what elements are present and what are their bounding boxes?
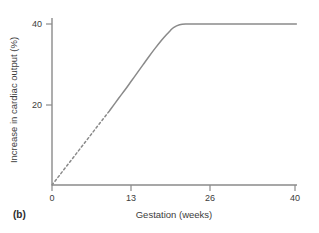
x-tick-label-0: 0: [49, 194, 54, 203]
x-tick-label-13: 13: [126, 194, 136, 203]
y-axis-title: Increase in cardiac output (%): [9, 37, 19, 163]
y-tick-label-20: 20: [24, 101, 42, 110]
x-axis-title: Gestation (weeks): [136, 210, 213, 220]
panel-label: (b): [13, 210, 26, 220]
y-tick-marks: [46, 24, 52, 105]
y-tick-label-40: 40: [24, 20, 42, 29]
cardiac-output-line-chart: [0, 0, 319, 233]
figure-panel-b: 40 20 0 13 26 40 Gestation (weeks) Incre…: [0, 0, 319, 233]
x-tick-label-26: 26: [205, 194, 215, 203]
data-line-solid-segment: [110, 24, 297, 111]
x-tick-label-40: 40: [290, 194, 300, 203]
data-line-dashed-segment: [52, 111, 110, 185]
x-tick-marks: [52, 185, 295, 191]
